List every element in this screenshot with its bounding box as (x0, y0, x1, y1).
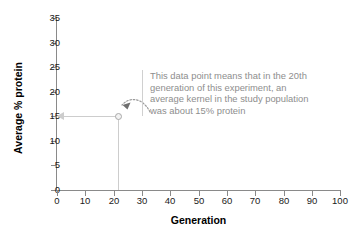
x-tick-label-10: 10 (70, 196, 100, 206)
x-axis-title: Generation (56, 214, 341, 226)
x-tick-label-40: 40 (155, 196, 185, 206)
annotation-callout: This data point means that in the 20th g… (142, 70, 342, 116)
x-tick-label-70: 70 (240, 196, 270, 206)
y-tick-label-5: 5 (34, 160, 60, 170)
cropped-text-strip (0, 0, 358, 4)
x-tick-label-80: 80 (269, 196, 299, 206)
y-tick-label-20: 20 (34, 87, 60, 97)
annotation-text: This data point means that in the 20th g… (150, 70, 342, 116)
protein-generation-scatter-chart: 0 5 10 15 20 25 30 35 0 10 20 30 40 50 6… (0, 0, 358, 237)
vertical-guide-line (118, 116, 119, 190)
x-tick-label-0: 0 (42, 196, 72, 206)
left-arrowhead-icon (57, 112, 64, 120)
horizontal-guide-line (58, 116, 118, 117)
x-tick-label-20: 20 (99, 196, 129, 206)
y-tick-label-30: 30 (34, 38, 60, 48)
y-tick-label-35: 35 (34, 13, 60, 23)
x-tick-label-100: 100 (325, 196, 355, 206)
y-axis-title: Average % protein (12, 43, 24, 173)
y-tick-label-10: 10 (34, 136, 60, 146)
x-tick-label-30: 30 (127, 196, 157, 206)
x-tick-label-90: 90 (297, 196, 327, 206)
x-tick-label-50: 50 (184, 196, 214, 206)
x-tick-label-60: 60 (212, 196, 242, 206)
y-tick-label-25: 25 (34, 62, 60, 72)
